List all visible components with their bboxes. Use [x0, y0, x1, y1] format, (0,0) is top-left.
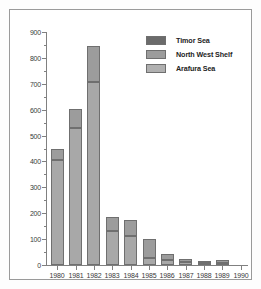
- bar-segment: [69, 128, 82, 265]
- x-tick: [222, 266, 223, 270]
- x-tick-label: 1988: [197, 272, 212, 279]
- legend-item[interactable]: Timor Sea: [146, 34, 250, 47]
- x-tick-label: 1986: [160, 272, 175, 279]
- y-tick-label: 0: [37, 262, 41, 269]
- y-tick-label: 700: [30, 80, 41, 87]
- y-tick-label: 300: [30, 184, 41, 191]
- y-tick-minor: [44, 200, 46, 201]
- x-tick: [186, 266, 187, 270]
- legend-label: Timor Sea: [176, 36, 210, 45]
- x-tick: [167, 266, 168, 270]
- y-tick-label: 200: [30, 210, 41, 217]
- legend-item[interactable]: North West Shelf: [146, 48, 250, 61]
- chart-figure: 0100200300400500600700800900 19801981198…: [0, 0, 261, 289]
- bar-segment: [216, 263, 229, 265]
- bar-segment: [106, 231, 119, 265]
- y-tick-label: 100: [30, 236, 41, 243]
- bar-1980[interactable]: [51, 149, 64, 266]
- bar-segment: [87, 82, 100, 265]
- y-tick-major: [42, 187, 46, 188]
- bar-segment: [161, 254, 174, 259]
- bar-segment: [198, 261, 211, 263]
- y-tick-major: [42, 239, 46, 240]
- y-tick-label: 500: [30, 132, 41, 139]
- bar-segment: [87, 46, 100, 81]
- y-tick-minor: [44, 45, 46, 46]
- y-tick-minor: [44, 174, 46, 175]
- y-tick-major: [42, 265, 46, 266]
- legend-swatch-icon: [146, 50, 166, 59]
- bar-segment: [143, 239, 156, 258]
- x-tick: [76, 266, 77, 270]
- bar-1983[interactable]: [106, 217, 119, 265]
- y-tick-major: [42, 32, 46, 33]
- x-tick: [241, 266, 242, 270]
- y-tick-label: 800: [30, 54, 41, 61]
- y-tick-label: 900: [30, 29, 41, 36]
- bar-segment: [106, 217, 119, 231]
- y-tick-major: [42, 136, 46, 137]
- y-axis: [46, 32, 47, 266]
- bar-segment: [143, 258, 156, 265]
- x-tick-label: 1980: [50, 272, 65, 279]
- bar-segment: [124, 236, 137, 265]
- y-tick-minor: [44, 97, 46, 98]
- x-tick-label: 1985: [142, 272, 157, 279]
- bar-1988[interactable]: [198, 261, 211, 265]
- bar-1981[interactable]: [69, 109, 82, 265]
- y-tick-minor: [44, 71, 46, 72]
- x-tick-label: 1983: [105, 272, 120, 279]
- legend-label: North West Shelf: [176, 50, 232, 59]
- x-tick: [94, 266, 95, 270]
- bar-1985[interactable]: [143, 239, 156, 265]
- bar-1989[interactable]: [216, 260, 229, 265]
- legend-swatch-icon: [146, 36, 166, 45]
- x-tick-label: 1987: [179, 272, 194, 279]
- bar-segment: [161, 260, 174, 265]
- y-tick-label: 400: [30, 158, 41, 165]
- x-tick-label: 1984: [124, 272, 139, 279]
- y-tick-minor: [44, 252, 46, 253]
- legend-item[interactable]: Arafura Sea: [146, 62, 250, 75]
- chart-legend: Timor SeaNorth West ShelfArafura Sea: [146, 34, 250, 76]
- x-tick: [112, 266, 113, 270]
- bar-segment: [216, 260, 229, 263]
- y-tick-minor: [44, 123, 46, 124]
- figure-frame: 0100200300400500600700800900 19801981198…: [9, 9, 252, 280]
- x-tick: [149, 266, 150, 270]
- y-tick-major: [42, 110, 46, 111]
- legend-swatch-icon: [146, 64, 166, 73]
- bar-segment: [179, 259, 192, 263]
- y-tick-major: [42, 213, 46, 214]
- bar-1982[interactable]: [87, 46, 100, 265]
- y-tick-label: 600: [30, 106, 41, 113]
- y-tick-minor: [44, 226, 46, 227]
- x-tick-label: 1982: [87, 272, 102, 279]
- y-tick-minor: [44, 149, 46, 150]
- x-tick-label: 1990: [234, 272, 249, 279]
- legend-label: Arafura Sea: [176, 64, 215, 73]
- y-tick-major: [42, 84, 46, 85]
- bar-segment: [179, 262, 192, 265]
- y-tick-major: [42, 58, 46, 59]
- bar-1984[interactable]: [124, 220, 137, 265]
- x-tick-label: 1989: [215, 272, 230, 279]
- bar-1986[interactable]: [161, 254, 174, 265]
- bar-1987[interactable]: [179, 259, 192, 265]
- x-tick-label: 1981: [69, 272, 84, 279]
- bar-segment: [124, 220, 137, 236]
- x-tick: [204, 266, 205, 270]
- bar-segment: [69, 109, 82, 128]
- x-tick: [131, 266, 132, 270]
- bar-segment: [51, 149, 64, 161]
- bar-segment: [51, 160, 64, 265]
- y-tick-major: [42, 161, 46, 162]
- x-tick: [57, 266, 58, 270]
